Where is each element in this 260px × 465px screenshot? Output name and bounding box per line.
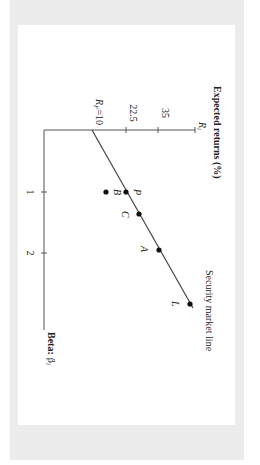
label-P: P [132,188,143,195]
point-A [156,247,161,252]
point-C [136,211,141,216]
tick-label-rf: RF=10 [92,98,105,125]
point-B [103,189,108,194]
returns-axis-title: Expected returns (%) [211,86,223,179]
tick-label-beta-2: 2 [25,251,36,256]
label-A: A [139,245,150,253]
beta-axis-title: Beta:βi [44,332,57,365]
label-L: L [170,300,181,307]
security-market-line [92,130,193,308]
point-P [123,189,128,194]
sml-chart: P B C A L Security market line 35 22.5 R… [0,0,260,465]
returns-axis-symbol: Ri [195,121,208,130]
point-L [187,301,192,306]
tick-label-beta-1: 1 [25,190,36,195]
sml-label: Security market line [204,270,215,352]
tick-label-22-5: 22.5 [128,104,139,122]
tick-label-35: 35 [160,108,171,118]
label-C: C [120,211,131,218]
label-B: B [112,189,123,195]
